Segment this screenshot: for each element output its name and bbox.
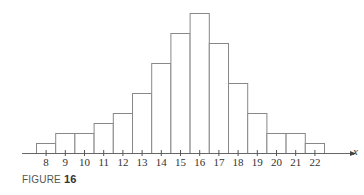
x-tick-label: 21 xyxy=(290,156,301,168)
histogram-bar-13 xyxy=(133,94,152,154)
histogram-chart xyxy=(0,0,364,175)
x-tick-label: 13 xyxy=(137,156,148,168)
x-tick-label: 16 xyxy=(194,156,205,168)
histogram-bars xyxy=(37,14,325,154)
histogram-bar-15 xyxy=(171,34,190,154)
histogram-bar-11 xyxy=(94,124,113,154)
figure-caption: FIGURE 16 xyxy=(22,173,77,185)
histogram-bar-14 xyxy=(152,64,171,154)
histogram-bar-17 xyxy=(209,44,228,154)
x-tick-label: 10 xyxy=(79,156,90,168)
x-axis-label: x xyxy=(353,145,358,157)
x-tick-label: 9 xyxy=(63,156,69,168)
x-tick-label: 20 xyxy=(271,156,282,168)
figure-caption-number: 16 xyxy=(64,173,77,185)
x-tick-label: 12 xyxy=(117,156,128,168)
histogram-bar-12 xyxy=(113,114,132,154)
x-tick-label: 22 xyxy=(309,156,320,168)
x-tick-label: 14 xyxy=(156,156,167,168)
x-tick-label: 19 xyxy=(252,156,263,168)
x-tick-label: 11 xyxy=(98,156,109,168)
x-tick-label: 15 xyxy=(175,156,186,168)
histogram-bar-16 xyxy=(190,14,209,154)
x-tick-label: 8 xyxy=(43,156,49,168)
histogram-bar-18 xyxy=(229,84,248,154)
figure-caption-prefix: FIGURE xyxy=(22,174,64,185)
x-tick-label: 18 xyxy=(233,156,244,168)
histogram-bar-19 xyxy=(248,114,267,154)
x-tick-label: 17 xyxy=(213,156,224,168)
